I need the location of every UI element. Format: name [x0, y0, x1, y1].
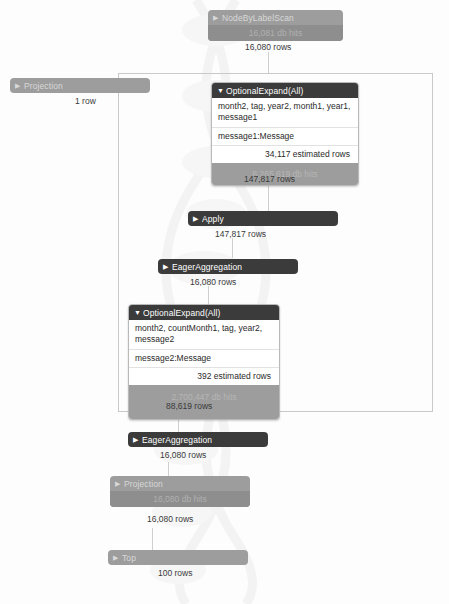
rows-label-top: 100 rows — [158, 568, 193, 578]
execution-plan-canvas: ▶ NodeByLabelScan 16,081 db hits 16,080 … — [0, 0, 449, 604]
rows-label-node-by-label-scan: 16,080 rows — [245, 42, 291, 52]
operator-identifiers: month2, tag, year2, month1, year1, messa… — [212, 98, 358, 128]
operator-db-hits: 16,080 db hits — [110, 491, 250, 507]
chevron-right-icon[interactable]: ▶ — [133, 436, 142, 443]
operator-top[interactable]: ▶ Top — [108, 550, 248, 565]
operator-body: month2, countMonth1, tag, year2, message… — [129, 320, 279, 385]
connector-projection-to-top — [152, 528, 153, 550]
operator-name: NodeByLabelScan — [222, 13, 294, 23]
operator-header[interactable]: ▶ EagerAggregation — [128, 432, 268, 447]
chevron-down-icon[interactable]: ▼ — [134, 309, 143, 316]
operator-optional-expand-all-1[interactable]: ▼ OptionalExpand(All) month2, tag, year2… — [211, 82, 359, 186]
operator-name: OptionalExpand(All) — [226, 86, 304, 96]
operator-header[interactable]: ▶ Top — [108, 550, 248, 565]
chevron-down-icon[interactable]: ▼ — [217, 87, 226, 94]
operator-name: EagerAggregation — [142, 435, 212, 445]
chevron-right-icon[interactable]: ▶ — [113, 554, 122, 561]
operator-eager-aggregation-1[interactable]: ▶ EagerAggregation — [158, 259, 298, 274]
operator-eager-aggregation-2[interactable]: ▶ EagerAggregation — [128, 432, 268, 447]
chevron-right-icon[interactable]: ▶ — [163, 263, 172, 270]
chevron-right-icon[interactable]: ▶ — [213, 14, 222, 21]
chevron-right-icon[interactable]: ▶ — [115, 480, 124, 487]
operator-header[interactable]: ▶ Projection — [10, 78, 150, 93]
rows-label-projection-left: 1 row — [75, 96, 96, 106]
operator-header[interactable]: ▶ Projection — [110, 476, 250, 491]
operator-body: month2, tag, year2, month1, year1, messa… — [212, 98, 358, 163]
operator-estimated-rows: 392 estimated rows — [129, 368, 279, 385]
connector-scan-to-expand — [268, 52, 269, 74]
chevron-right-icon[interactable]: ▶ — [193, 215, 202, 222]
rows-label-projection-bottom: 16,080 rows — [147, 514, 193, 524]
operator-header[interactable]: ▶ EagerAggregation — [158, 259, 298, 274]
operator-header[interactable]: ▼ OptionalExpand(All) — [212, 83, 358, 98]
chevron-right-icon[interactable]: ▶ — [15, 82, 24, 89]
operator-details: message1:Message — [212, 128, 358, 146]
operator-apply[interactable]: ▶ Apply — [188, 211, 338, 226]
operator-name: Top — [122, 553, 136, 563]
operator-identifiers: month2, countMonth1, tag, year2, message… — [129, 320, 279, 350]
rows-label-optional-expand-2: 88,619 rows — [166, 401, 212, 411]
operator-node-by-label-scan[interactable]: ▶ NodeByLabelScan 16,081 db hits — [208, 10, 343, 41]
rows-label-eager-aggregation-2: 16,080 rows — [160, 450, 206, 460]
operator-header[interactable]: ▶ Apply — [188, 211, 338, 226]
operator-name: OptionalExpand(All) — [143, 308, 221, 318]
rows-label-apply: 147,817 rows — [215, 229, 266, 239]
operator-projection-bottom[interactable]: ▶ Projection 16,080 db hits — [110, 476, 250, 507]
operator-name: EagerAggregation — [172, 262, 242, 272]
operator-name: Apply — [202, 214, 224, 224]
operator-name: Projection — [24, 81, 63, 91]
operator-header[interactable]: ▶ NodeByLabelScan — [208, 10, 343, 25]
operator-estimated-rows: 34,117 estimated rows — [212, 146, 358, 163]
operator-header[interactable]: ▼ OptionalExpand(All) — [129, 305, 279, 320]
rows-label-eager-aggregation-1: 16,080 rows — [190, 277, 236, 287]
operator-db-hits: 16,081 db hits — [208, 25, 343, 41]
rows-label-optional-expand-1: 147,817 rows — [244, 174, 295, 184]
operator-details: message2:Message — [129, 350, 279, 368]
operator-projection-left[interactable]: ▶ Projection — [10, 78, 150, 93]
operator-name: Projection — [124, 479, 163, 489]
